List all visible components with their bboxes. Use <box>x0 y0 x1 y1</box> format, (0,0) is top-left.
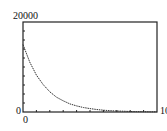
decay-curve <box>23 45 157 112</box>
y-min-label: 0 <box>16 106 21 116</box>
y-max-label: 20000 <box>13 11 38 21</box>
x-min-label: 0 <box>23 115 28 125</box>
plot-frame <box>23 22 157 112</box>
x-max-label: 10 <box>160 106 167 116</box>
